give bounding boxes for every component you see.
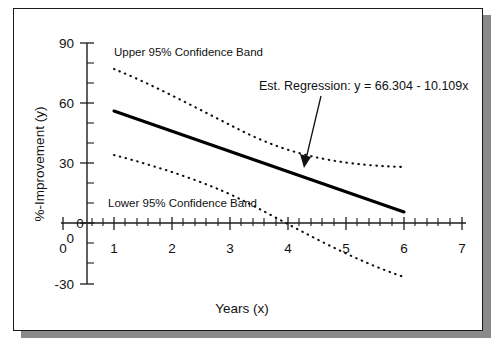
upper-band-label: Upper 95% Confidence Band — [114, 46, 263, 58]
figure-root: 90 60 30 0 -30 0 0 1 2 3 4 5 6 7 — [0, 0, 497, 348]
x-axis — [61, 217, 466, 230]
x-tick-label-2: 2 — [168, 241, 176, 256]
origin-zero-marker: 0 — [76, 216, 84, 231]
x-tick-label-6: 6 — [400, 241, 408, 256]
y-axis — [80, 43, 94, 284]
x-tick-label-1: 1 — [110, 241, 118, 256]
y-axis-title: %-Improvement (y) — [32, 107, 47, 222]
lower-confidence-band — [114, 155, 404, 277]
chart-frame: 90 60 30 0 -30 0 0 1 2 3 4 5 6 7 — [13, 8, 483, 331]
x-tick-label-4: 4 — [284, 241, 292, 256]
lower-band-label: Lower 95% Confidence Band — [108, 197, 257, 209]
x-tick-label-7: 7 — [458, 241, 466, 256]
x-axis-title: Years (x) — [215, 301, 269, 316]
y-tick-label-30: 30 — [59, 156, 74, 171]
x-tick-label-0: 0 — [59, 241, 67, 256]
x-tick-label-3: 3 — [226, 241, 234, 256]
y-tick-label-0: 0 — [66, 231, 74, 246]
y-tick-label-90: 90 — [59, 36, 74, 51]
regression-equation-label: Est. Regression: y = 66.304 - 10.109x — [259, 79, 469, 93]
y-tick-label-60: 60 — [59, 96, 74, 111]
y-tick-label-neg30: -30 — [54, 277, 74, 292]
regression-chart: 90 60 30 0 -30 0 0 1 2 3 4 5 6 7 — [14, 9, 484, 332]
